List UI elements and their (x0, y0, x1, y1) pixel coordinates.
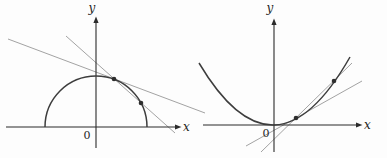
left-tangent-line (8, 39, 205, 113)
right-upper-point-dot (332, 79, 337, 84)
left-y-axis-arrow-icon (93, 17, 98, 24)
math-figure: y x 0 y x 0 (0, 0, 387, 158)
left-x-axis-arrow-icon (175, 124, 182, 129)
left-x-axis-label: x (183, 120, 190, 134)
left-upper-point-dot (112, 77, 117, 82)
right-x-axis-arrow-icon (356, 122, 363, 127)
right-x-axis-label: x (364, 118, 371, 132)
figure-canvas: y x 0 y x 0 (0, 0, 387, 158)
left-origin-label: 0 (84, 129, 91, 142)
left-lower-point-dot (139, 101, 144, 106)
right-graph: y x 0 (199, 1, 371, 152)
right-y-axis-arrow-icon (271, 19, 276, 26)
left-secant-line (66, 36, 175, 133)
right-lower-point-dot (294, 116, 299, 121)
left-y-axis-label: y (88, 1, 96, 15)
left-graph: y x 0 (6, 1, 205, 148)
right-origin-label: 0 (263, 127, 270, 140)
right-y-axis-label: y (266, 1, 274, 15)
